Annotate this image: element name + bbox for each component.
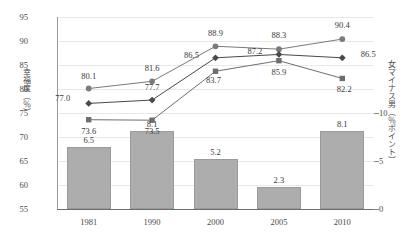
chart-container: 幸福度（％） 女マイナス男（％ポイント） 556065707580859095 … bbox=[0, 0, 409, 245]
bar-value-label: 6.5 bbox=[67, 135, 111, 145]
series-value-label: 73.6 bbox=[72, 126, 106, 136]
series-value-label: 87.2 bbox=[238, 46, 272, 56]
series-value-label: 90.4 bbox=[325, 20, 359, 30]
series-value-label: 77.7 bbox=[135, 82, 169, 92]
series-value-label: 77.0 bbox=[46, 93, 80, 103]
bar-value-label: 8.1 bbox=[320, 119, 364, 129]
series-value-label: 80.1 bbox=[72, 71, 106, 81]
bar-value-label: 5.2 bbox=[194, 147, 238, 157]
series-value-label: 88.3 bbox=[262, 30, 296, 40]
series-value-label: 88.9 bbox=[199, 28, 233, 38]
series-value-label: 86.5 bbox=[175, 50, 209, 60]
data-labels: 6.58.15.22.38.180.181.688.988.390.477.07… bbox=[0, 0, 409, 245]
series-value-label: 85.9 bbox=[262, 67, 296, 77]
series-value-label: 73.5 bbox=[135, 126, 169, 136]
series-value-label: 82.2 bbox=[327, 84, 361, 94]
series-value-label: 83.7 bbox=[197, 75, 231, 85]
bar-value-label: 2.3 bbox=[257, 175, 301, 185]
series-value-label: 81.6 bbox=[135, 63, 169, 73]
series-value-label: 86.5 bbox=[351, 49, 385, 59]
